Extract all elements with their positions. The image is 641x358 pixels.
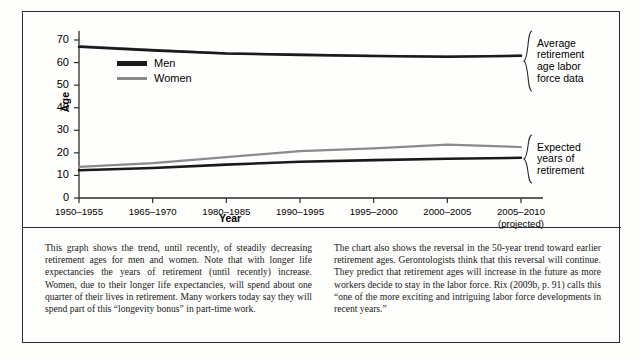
annotation-average-retirement-age: Average retirement age labor force data: [523, 30, 584, 92]
y-tick-label: 0: [45, 192, 69, 203]
caption-left-column: This graph shows the trend, until recent…: [45, 242, 312, 335]
legend-item-women: Women: [117, 71, 192, 86]
x-axis-title: Year: [219, 212, 241, 224]
y-tick-label: 60: [45, 57, 69, 68]
legend-swatch-men-icon: [117, 61, 147, 65]
y-tick-label: 40: [45, 102, 69, 113]
y-tick-label: 20: [45, 147, 69, 158]
legend-label-men: Men: [154, 58, 175, 69]
y-tick-label: 50: [45, 79, 69, 90]
annotation-expected-years-retirement: Expected years of retirement: [523, 134, 584, 184]
y-tick-label: 10: [45, 169, 69, 180]
curly-brace-icon: [523, 134, 534, 184]
caption-right-column: The chart also shows the reversal in the…: [334, 242, 601, 335]
caption-area: This graph shows the trend, until recent…: [23, 228, 621, 343]
legend-swatch-women-icon: [117, 77, 147, 80]
x-tick-label: 2005–2010(projected): [476, 206, 566, 229]
legend-label-women: Women: [154, 73, 192, 84]
annotation-lower-text: Expected years of retirement: [537, 142, 584, 177]
annotation-upper-text: Average retirement age labor force data: [537, 38, 584, 84]
y-tick-label: 70: [45, 34, 69, 45]
legend-item-men: Men: [117, 56, 192, 71]
chart-panel: Age 010203040506070 1950–19551965–197019…: [23, 12, 621, 227]
y-tick-label: 30: [45, 124, 69, 135]
chart-legend: Men Women: [117, 56, 192, 86]
figure-frame: Age 010203040506070 1950–19551965–197019…: [22, 11, 620, 343]
figure-page: Age 010203040506070 1950–19551965–197019…: [0, 0, 641, 358]
curly-brace-icon: [523, 30, 534, 92]
